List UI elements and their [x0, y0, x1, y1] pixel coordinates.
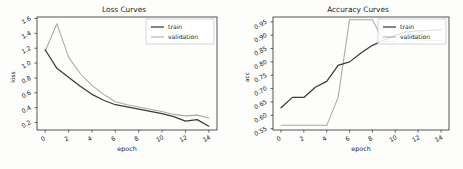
accuracy-y-axis-label: acc — [244, 72, 250, 82]
figure-canvas: Loss Curves 024681012140.20.40.60.81.01.… — [0, 0, 463, 169]
accuracy-chart-panel: Accuracy Curves 024681012140.550.600.650… — [232, 0, 463, 169]
x-tick-label: 0 — [39, 134, 46, 142]
accuracy-chart-svg: Accuracy Curves 024681012140.550.600.650… — [232, 0, 463, 169]
x-tick-label: 2 — [63, 134, 70, 142]
accuracy-legend[interactable]: train validation — [378, 19, 446, 44]
x-tick-label: 4 — [86, 134, 93, 142]
accuracy-legend-label-train: train — [400, 23, 414, 30]
loss-chart-panel: Loss Curves 024681012140.20.40.60.81.01.… — [0, 0, 232, 169]
x-tick-label: 6 — [343, 134, 350, 142]
y-tick-label: 0.4 — [20, 104, 32, 115]
x-tick-label: 4 — [320, 134, 327, 142]
loss-legend[interactable]: train validation — [146, 19, 214, 44]
loss-x-axis-label: epoch — [117, 145, 136, 153]
loss-series-train-line — [45, 50, 209, 127]
x-tick-label: 10 — [155, 133, 165, 143]
y-tick-label: 0.65 — [252, 98, 267, 111]
y-tick-label: 0.75 — [252, 71, 267, 84]
y-tick-label: 0.70 — [252, 84, 267, 97]
x-tick-label: 0 — [275, 134, 282, 142]
y-tick-label: 0.2 — [20, 118, 32, 129]
x-tick-label: 12 — [410, 133, 420, 143]
x-tick-label: 10 — [387, 133, 397, 143]
y-tick-label: 0.90 — [252, 31, 267, 44]
x-tick-label: 14 — [201, 133, 211, 143]
y-tick-label: 0.6 — [20, 89, 32, 100]
loss-legend-label-validation: validation — [168, 33, 198, 40]
y-tick-label: 0.85 — [252, 44, 267, 57]
y-tick-label: 1.0 — [20, 59, 32, 70]
y-tick-label: 0.8 — [20, 74, 32, 85]
y-tick-label: 0.80 — [252, 58, 267, 71]
x-tick-label: 6 — [110, 134, 117, 142]
loss-chart-title: Loss Curves — [102, 5, 146, 14]
accuracy-legend-label-validation: validation — [400, 33, 430, 40]
loss-y-axis-label: loss — [10, 71, 16, 82]
x-tick-label: 2 — [298, 134, 305, 142]
accuracy-chart-title: Accuracy Curves — [327, 5, 389, 14]
x-tick-label: 8 — [133, 134, 140, 142]
y-tick-label: 0.60 — [252, 111, 267, 124]
loss-chart-svg: Loss Curves 024681012140.20.40.60.81.01.… — [0, 0, 232, 169]
loss-legend-label-train: train — [168, 23, 182, 30]
y-tick-label: 1.6 — [20, 14, 32, 25]
x-tick-label: 14 — [433, 133, 443, 143]
y-tick-label: 1.4 — [20, 29, 32, 40]
y-tick-label: 0.55 — [252, 125, 267, 138]
y-tick-label: 0.95 — [252, 18, 267, 31]
accuracy-x-axis-label: epoch — [351, 145, 370, 153]
x-tick-label: 8 — [366, 134, 373, 142]
x-tick-label: 12 — [178, 133, 188, 143]
y-tick-label: 1.2 — [20, 44, 32, 55]
